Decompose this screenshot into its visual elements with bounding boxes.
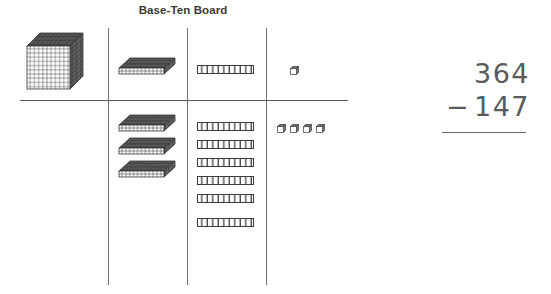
hundred-flat-piece bbox=[118, 160, 176, 180]
hundred-flat-icon bbox=[118, 137, 176, 157]
ten-rod-icon bbox=[197, 122, 254, 131]
thousand-cube-icon bbox=[26, 32, 84, 94]
unit-cube-piece bbox=[303, 119, 312, 128]
ten-rod-piece bbox=[197, 171, 254, 180]
column-divider-thousands-hundreds bbox=[108, 28, 109, 285]
unit-cube-piece bbox=[316, 119, 325, 128]
unit-cube-icon bbox=[316, 124, 325, 133]
ten-rod-icon bbox=[197, 194, 254, 203]
ten-rod-piece bbox=[197, 153, 254, 162]
minuend-value: 364 bbox=[474, 58, 530, 89]
problem-rule-line bbox=[442, 132, 526, 133]
ten-rod-piece bbox=[197, 60, 254, 69]
unit-cube-icon bbox=[290, 124, 299, 133]
ten-rod-icon bbox=[197, 218, 254, 227]
hundred-flat-icon bbox=[118, 114, 176, 134]
unit-cube-piece bbox=[290, 61, 299, 70]
ten-rod-icon bbox=[197, 140, 254, 149]
hundred-flat-piece bbox=[118, 137, 176, 157]
ten-rod-piece bbox=[197, 117, 254, 126]
subtrahend-value: 147 bbox=[474, 91, 530, 122]
unit-cube-icon bbox=[290, 66, 299, 75]
ten-rod-piece bbox=[197, 189, 254, 198]
hundred-flat-icon bbox=[118, 160, 176, 180]
ten-rod-icon bbox=[197, 158, 254, 167]
row-divider bbox=[20, 100, 348, 101]
ten-rod-piece bbox=[197, 213, 254, 222]
column-divider-hundreds-tens bbox=[187, 28, 188, 285]
hundred-flat-piece bbox=[118, 57, 176, 77]
ten-rod-icon bbox=[197, 65, 254, 74]
unit-cube-icon bbox=[277, 124, 286, 133]
hundred-flat-piece bbox=[118, 114, 176, 134]
thousand-cube-piece bbox=[26, 32, 84, 94]
unit-cube-piece bbox=[277, 119, 286, 128]
hundred-flat-icon bbox=[118, 57, 176, 77]
unit-cube-icon bbox=[303, 124, 312, 133]
unit-cube-piece bbox=[290, 119, 299, 128]
column-divider-tens-ones bbox=[266, 28, 267, 285]
minus-operator: − bbox=[446, 91, 469, 122]
ten-rod-icon bbox=[197, 176, 254, 185]
ten-rod-piece bbox=[197, 135, 254, 144]
page-title: Base-Ten Board bbox=[0, 4, 366, 16]
